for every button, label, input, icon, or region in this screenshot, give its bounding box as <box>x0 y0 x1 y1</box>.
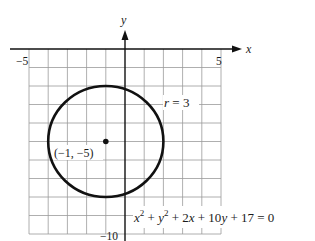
y-axis-label: y <box>120 13 127 27</box>
x-tick-label-neg5: −5 <box>16 55 28 67</box>
y-tick-label-neg10: −10 <box>100 230 118 241</box>
x-axis-arrow-icon <box>232 46 242 53</box>
coordinate-graph: x y −5 5 −10 (−1, −5) r = 3 x2 + y2 + 2x… <box>0 0 315 241</box>
center-label: (−1, −5) <box>54 146 94 160</box>
circle-equation: x2 + y2 + 2x + 10y + 17 = 0 <box>133 208 274 225</box>
radius-label: r = 3 <box>164 95 189 110</box>
center-point <box>103 139 109 145</box>
x-axis-label: x <box>245 42 252 56</box>
x-tick-label-5: 5 <box>216 55 222 67</box>
y-axis-arrow-icon <box>122 30 129 40</box>
